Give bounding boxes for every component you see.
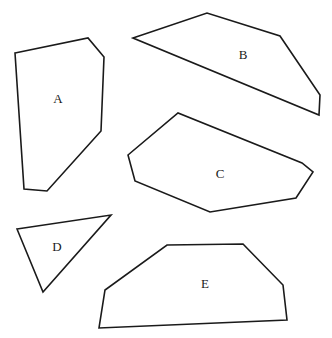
polygon-label-b: B [239, 47, 248, 62]
polygon-label-e: E [201, 276, 209, 291]
polygon-label-d: D [52, 239, 61, 254]
polygon-label-a: A [53, 91, 63, 106]
polygon-diagram: ABCDE [0, 0, 332, 338]
polygon-label-c: C [216, 166, 225, 181]
